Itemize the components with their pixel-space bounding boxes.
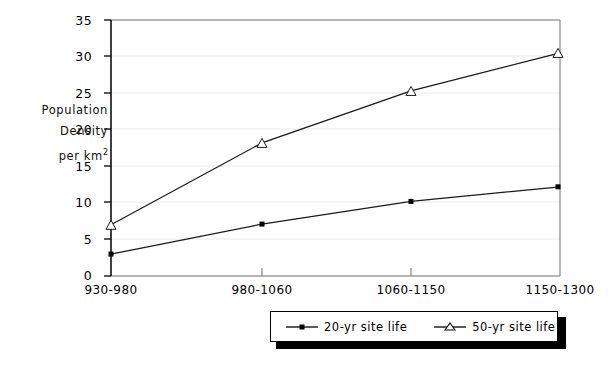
chart-legend: 20-yr site life 50-yr site life <box>270 311 558 342</box>
series-20yr-marker-4 <box>556 184 561 189</box>
series-50yr-marker-4 <box>553 48 563 57</box>
y-axis <box>104 20 111 276</box>
gridlines <box>111 56 560 239</box>
series-20yr-marker-2 <box>260 222 265 227</box>
series-20yr-marker-1 <box>109 252 114 257</box>
series-20yr <box>109 184 561 256</box>
legend-item-50yr: 50-yr site life <box>433 320 555 334</box>
legend-marker-square-dot-icon <box>285 321 319 333</box>
chart-figure: Population Density per km2 35 30 25 20 1… <box>0 0 610 374</box>
legend-label-20yr: 20-yr site life <box>324 320 407 334</box>
series-50yr-line <box>111 53 560 225</box>
series-20yr-marker-3 <box>409 199 414 204</box>
series-50yr-marker-2 <box>257 138 267 147</box>
series-50yr-marker-3 <box>406 86 416 95</box>
legend-item-20yr: 20-yr site life <box>285 320 407 334</box>
legend-marker-open-triangle-icon <box>433 321 467 333</box>
x-axis <box>262 268 411 276</box>
series-50yr-marker-1 <box>106 220 116 229</box>
series-20yr-line <box>111 187 560 254</box>
plot-frame <box>111 20 560 276</box>
legend-label-50yr: 50-yr site life <box>472 320 555 334</box>
